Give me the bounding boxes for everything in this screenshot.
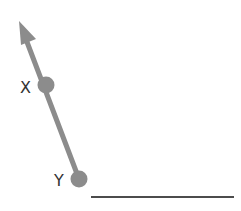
ray-line xyxy=(27,42,79,179)
point-y xyxy=(71,171,88,188)
diagram-canvas: X Y xyxy=(0,0,241,211)
point-x-label: X xyxy=(20,78,31,97)
point-x xyxy=(38,77,55,94)
arrowhead-icon xyxy=(19,21,36,45)
point-y-label: Y xyxy=(53,171,64,190)
ray-yx xyxy=(19,21,79,179)
